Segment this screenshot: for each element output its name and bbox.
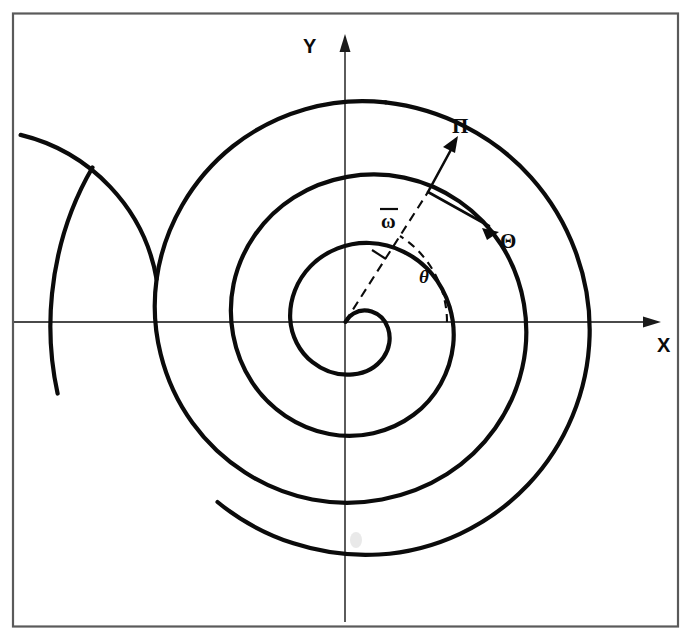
theta-vector-label: Θ: [500, 229, 516, 253]
archimedean-spiral-curve: [155, 101, 527, 503]
x-axis-arrowhead: [643, 317, 661, 328]
archimedean-spiral-inner-arm: [21, 135, 157, 279]
spiral-left-terminus: [50, 168, 92, 394]
scan-artifact: [350, 532, 362, 548]
y-axis-arrowhead: [340, 34, 351, 52]
theta-vector-line: [428, 192, 489, 226]
radius-tick-mark: [372, 250, 386, 259]
y-axis-label: Y: [303, 35, 317, 57]
radius-label: ω: [381, 210, 396, 232]
x-axis-label: X: [657, 334, 671, 356]
figure-container: Y X Π Θ ω θ: [0, 0, 690, 639]
angle-label: θ: [419, 266, 429, 287]
pi-vector-line: [428, 146, 453, 192]
pi-vector-arrowhead: [443, 136, 458, 153]
pi-vector-label: Π: [452, 114, 468, 138]
spiral-figure: Y X Π Θ ω θ: [0, 0, 690, 639]
